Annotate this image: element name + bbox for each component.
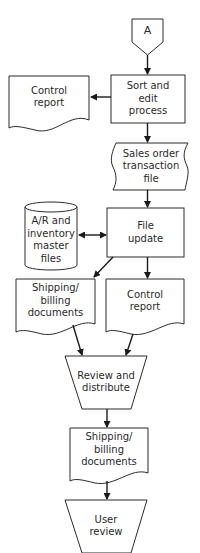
connector-a-label: A [132, 20, 163, 42]
shipping-docs-1-label: Shipping/ billing documents [16, 281, 95, 321]
review-distribute-label: Review and distribute [65, 362, 147, 402]
shipping-docs-2-label: Shipping/ billing documents [70, 430, 148, 470]
arrow-control-report-2-to-review [126, 334, 133, 355]
sort-edit-label: Sort and edit process [111, 75, 185, 123]
arrow-shipping-1-to-review [73, 325, 82, 355]
sales-order-file-label: Sales order transaction file [114, 143, 188, 190]
user-review-label: User review [65, 506, 147, 546]
control-report-1-label: Control report [9, 78, 89, 116]
arrow-update-to-shipping-1 [94, 257, 113, 277]
file-update-label: File update [107, 208, 184, 257]
master-files-label: A/R and inventory master files [25, 212, 77, 268]
control-report-2-label: Control report [106, 281, 184, 321]
